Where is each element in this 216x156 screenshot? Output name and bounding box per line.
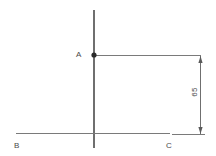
dimension-arrow-bottom-icon	[198, 127, 202, 134]
point-label-a: A	[76, 51, 81, 59]
technical-diagram: A B C 65	[0, 0, 216, 156]
diagram-canvas	[0, 0, 216, 156]
dimension-arrow-top-icon	[198, 56, 202, 63]
point-label-c: C	[166, 142, 172, 150]
dimension-value-label: 65	[191, 87, 199, 96]
point-label-b: B	[14, 142, 19, 150]
point-a-marker-icon	[91, 52, 96, 57]
